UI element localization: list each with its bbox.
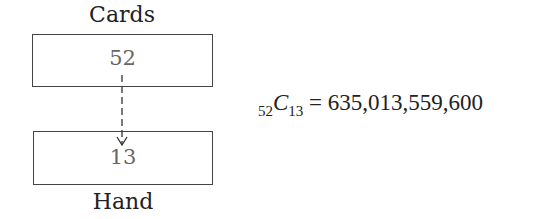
hand-label: Hand [33, 189, 213, 214]
formula-equals: = [309, 90, 322, 115]
formula-symbol: C [273, 90, 288, 115]
formula-pre-subscript: 52 [258, 103, 273, 119]
formula-result: 635,013,559,600 [328, 90, 483, 115]
combination-formula: 52C13 = 635,013,559,600 [258, 90, 483, 120]
formula-subscript: 13 [288, 103, 303, 119]
